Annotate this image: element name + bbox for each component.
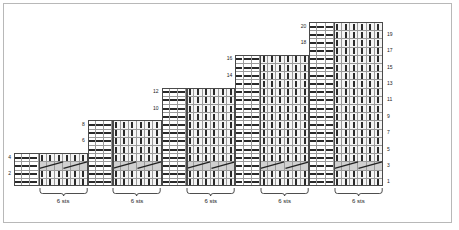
knit-stitch-icon <box>156 147 158 153</box>
purl-stitch-icon <box>178 124 185 126</box>
knit-stitch-icon <box>361 179 363 185</box>
knit-stitch-icon <box>369 138 371 144</box>
purl-stitch-icon <box>22 173 29 175</box>
chart-cell-knit <box>276 178 284 186</box>
chart-cell-purl <box>252 71 260 79</box>
chart-cell-knit <box>293 120 301 128</box>
chart-cell-purl <box>104 137 112 145</box>
chart-cell-knit <box>301 120 309 128</box>
panel-separator <box>112 120 113 186</box>
purl-stitch-icon <box>96 157 103 159</box>
chart-cell-purl <box>170 129 178 137</box>
knit-stitch-icon <box>377 56 379 62</box>
knit-stitch-icon <box>361 24 363 30</box>
chart-cell-purl <box>326 79 334 87</box>
row-number-right: 13 <box>387 81 399 86</box>
chart-cell-knit <box>358 38 366 46</box>
knit-stitch-icon <box>263 171 265 177</box>
purl-stitch-icon <box>22 157 29 159</box>
chart-cell-knit <box>227 137 235 145</box>
chart-cell-knit <box>276 153 284 161</box>
knit-stitch-icon <box>279 81 281 87</box>
chart-cell-knit <box>276 55 284 63</box>
chart-cell-knit <box>350 145 358 153</box>
chart-cell-purl <box>162 145 170 153</box>
chart-cell-knit <box>129 137 137 145</box>
chart-cell-knit <box>301 170 309 178</box>
chart-cell-purl <box>235 170 243 178</box>
panel-separator <box>39 153 40 186</box>
purl-stitch-icon <box>317 26 324 28</box>
chart-cell-knit <box>285 71 293 79</box>
knit-stitch-icon <box>361 97 363 103</box>
knit-stitch-icon <box>222 89 224 95</box>
purl-stitch-icon <box>309 99 316 101</box>
chart-cell-purl <box>317 153 325 161</box>
purl-stitch-icon <box>178 181 185 183</box>
purl-stitch-icon <box>309 173 316 175</box>
chart-cell-purl <box>30 178 38 186</box>
chart-cell-knit <box>293 63 301 71</box>
purl-stitch-icon <box>317 165 324 167</box>
chart-cell-purl <box>252 161 260 169</box>
chart-cell-knit <box>203 137 211 145</box>
chart-cell-knit <box>203 120 211 128</box>
knit-stitch-icon <box>189 97 191 103</box>
knit-stitch-icon <box>123 179 125 185</box>
chart-cell-knit <box>276 88 284 96</box>
purl-stitch-icon <box>317 140 324 142</box>
knit-stitch-icon <box>197 114 199 120</box>
chart-cell-purl <box>88 170 96 178</box>
purl-stitch-icon <box>162 181 169 183</box>
knit-stitch-icon <box>369 81 371 87</box>
knit-stitch-icon <box>345 155 347 161</box>
chart-cell-purl <box>162 129 170 137</box>
knit-stitch-icon <box>148 138 150 144</box>
chart-cell-knit <box>358 112 366 120</box>
chart-cell-purl <box>178 112 186 120</box>
chart-cell-knit <box>301 112 309 120</box>
knit-stitch-icon <box>197 130 199 136</box>
chart-cell-knit <box>358 63 366 71</box>
chart-cell-purl <box>178 137 186 145</box>
purl-stitch-icon <box>235 149 242 151</box>
chart-cell-knit <box>194 145 202 153</box>
chart-cell-knit <box>129 129 137 137</box>
chart-cell-knit <box>342 137 350 145</box>
knit-stitch-icon <box>345 65 347 71</box>
chart-cell-knit <box>301 153 309 161</box>
chart-cell-purl <box>309 104 317 112</box>
knit-stitch-icon <box>222 179 224 185</box>
purl-stitch-icon <box>178 140 185 142</box>
knit-stitch-icon <box>345 73 347 79</box>
chart-cell-knit <box>342 79 350 87</box>
chart-cell-purl <box>317 55 325 63</box>
chart-cell-knit <box>219 96 227 104</box>
knit-stitch-icon <box>353 155 355 161</box>
knit-stitch-icon <box>336 171 338 177</box>
row-number-right: 5 <box>387 147 399 152</box>
knit-stitch-icon <box>353 171 355 177</box>
knit-stitch-icon <box>197 147 199 153</box>
knit-stitch-icon <box>336 106 338 112</box>
purl-stitch-icon <box>326 165 333 167</box>
knit-stitch-icon <box>345 24 347 30</box>
chart-cell-purl <box>309 55 317 63</box>
purl-stitch-icon <box>326 173 333 175</box>
row-number-right: 15 <box>387 65 399 70</box>
chart-cell-knit <box>342 129 350 137</box>
chart-cell-knit <box>293 88 301 96</box>
chart-cell-purl <box>235 129 243 137</box>
chart-cell-knit <box>153 161 161 169</box>
knit-stitch-icon <box>336 81 338 87</box>
chart-cell-purl <box>22 178 30 186</box>
chart-cell-purl <box>170 145 178 153</box>
knit-stitch-icon <box>369 122 371 128</box>
purl-stitch-icon <box>317 149 324 151</box>
purl-stitch-icon <box>309 26 316 28</box>
knit-stitch-icon <box>123 138 125 144</box>
purl-stitch-icon <box>317 132 324 134</box>
chart-cell-knit <box>367 120 375 128</box>
knit-stitch-icon <box>377 40 379 46</box>
knit-stitch-icon <box>295 56 297 62</box>
